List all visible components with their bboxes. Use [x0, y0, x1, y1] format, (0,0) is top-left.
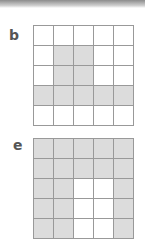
grid-cell	[74, 219, 94, 239]
grid-cell	[114, 66, 134, 86]
grid-cell	[54, 159, 74, 179]
grid-cell	[34, 106, 54, 126]
grid-cell	[94, 66, 114, 86]
grid-cell	[34, 179, 54, 199]
grid-cell	[114, 106, 134, 126]
grid-cell	[114, 86, 134, 106]
grid-cell	[74, 139, 94, 159]
grid-cell	[114, 46, 134, 66]
grid-cell	[54, 139, 74, 159]
grid-cell	[54, 199, 74, 219]
top-edge-shadow	[0, 0, 145, 8]
grid-cell	[114, 26, 134, 46]
grid-cell	[94, 106, 114, 126]
grid-cell	[34, 66, 54, 86]
grid-cell	[74, 106, 94, 126]
grid-cell	[94, 159, 114, 179]
grid-cell	[74, 199, 94, 219]
grid-cell	[114, 199, 134, 219]
grid-cell	[94, 46, 114, 66]
grid-cell	[74, 86, 94, 106]
grid-cell	[34, 139, 54, 159]
grid-cell	[94, 179, 114, 199]
grid-cell	[94, 26, 114, 46]
grid-cell	[54, 179, 74, 199]
grid-cell	[54, 106, 74, 126]
grid-cell	[34, 159, 54, 179]
grid-cell	[74, 26, 94, 46]
grid-cell	[74, 66, 94, 86]
grid-cell	[54, 219, 74, 239]
grid-cell	[74, 46, 94, 66]
grid-cell	[34, 86, 54, 106]
grid-cell	[74, 159, 94, 179]
grid-cell	[54, 46, 74, 66]
grid-cell	[94, 219, 114, 239]
grid-cell	[54, 26, 74, 46]
grid-cell	[114, 219, 134, 239]
grid-cell	[114, 159, 134, 179]
grid-cell	[34, 199, 54, 219]
grid-cell	[114, 139, 134, 159]
grid-cell	[114, 179, 134, 199]
grid-cell	[34, 46, 54, 66]
grid-cell	[94, 86, 114, 106]
grid-b	[33, 25, 134, 126]
grid-cell	[54, 86, 74, 106]
panel-label-b: b	[9, 27, 19, 43]
grid-cell	[54, 66, 74, 86]
grid-cell	[34, 219, 54, 239]
grid-cell	[34, 26, 54, 46]
panel-label-e: e	[13, 137, 23, 153]
grid-cell	[94, 199, 114, 219]
grid-e	[33, 138, 134, 239]
grid-cell	[94, 139, 114, 159]
grid-cell	[74, 179, 94, 199]
